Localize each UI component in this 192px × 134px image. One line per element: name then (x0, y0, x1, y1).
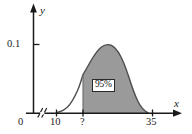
y-tick-label-0-1: 0.1 (7, 39, 20, 50)
x-axis-arrowhead (173, 110, 182, 117)
x-tick-label-unknown: ? (80, 117, 85, 128)
normal-distribution-figure: y x 0.1 0 10 ? 35 95% (0, 0, 192, 134)
x-tick-label-10: 10 (50, 117, 61, 128)
x-axis-label: x (174, 98, 179, 109)
x-tick-label-origin: 0 (18, 117, 23, 128)
x-tick-label-35: 35 (146, 117, 157, 128)
y-axis-label: y (40, 5, 45, 16)
area-percentage-label: 95% (92, 79, 115, 92)
y-axis-arrowhead (30, 4, 37, 13)
plot-canvas (0, 0, 192, 134)
